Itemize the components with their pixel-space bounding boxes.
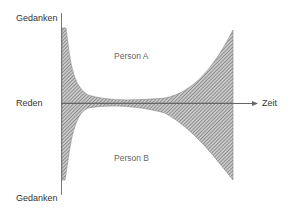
upper-area: [62, 28, 233, 103]
time-axis-arrowhead: [252, 101, 258, 106]
axis-label-bottom: Gedanken: [16, 193, 58, 203]
region-label-person-a: Person A: [114, 51, 149, 61]
lower-area: [62, 103, 233, 180]
axis-label-time: Zeit: [262, 98, 277, 108]
diagram-canvas: [0, 0, 292, 210]
axis-label-middle: Reden: [16, 98, 43, 108]
region-label-person-b: Person B: [114, 153, 149, 163]
axis-label-top: Gedanken: [16, 13, 58, 23]
